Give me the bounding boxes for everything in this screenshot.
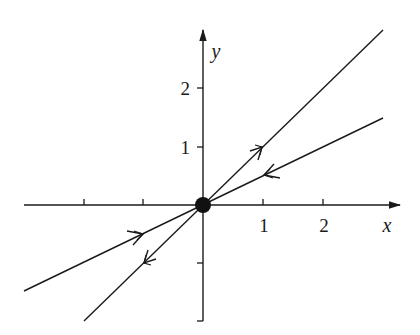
x-tick-label-1: 1 — [259, 215, 269, 236]
y-axis: 2 1 y — [181, 30, 221, 321]
equilibrium-point — [195, 197, 211, 213]
y-tick-label-2: 2 — [181, 78, 191, 99]
x-tick-label-2: 2 — [319, 215, 329, 236]
y-tick-label-1: 1 — [181, 137, 191, 158]
steep-line — [84, 30, 383, 321]
x-axis-label: x — [382, 214, 392, 236]
x-axis: 1 2 x — [24, 199, 400, 236]
phase-portrait-figure: 1 2 x 2 1 y — [0, 0, 420, 335]
y-axis-label: y — [210, 40, 221, 63]
